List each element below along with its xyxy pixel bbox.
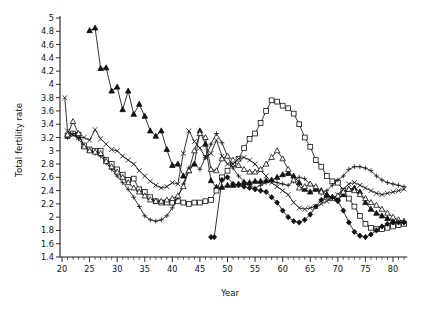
data-point-marker (87, 138, 92, 143)
x-tick-label: 65 (305, 264, 315, 274)
data-point-marker (390, 214, 396, 219)
x-tick-label: 75 (360, 264, 370, 274)
data-point-marker (252, 178, 258, 183)
y-tick-label: 4.6 (41, 40, 54, 50)
data-point-marker (258, 120, 263, 125)
data-point-marker (214, 188, 219, 193)
axes (56, 16, 407, 262)
data-point-marker (153, 183, 158, 188)
data-point-marker (209, 142, 214, 147)
series-square (65, 98, 406, 232)
data-point-marker (181, 184, 187, 189)
data-point-marker (103, 65, 109, 70)
fertility-rate-line-chart: 1.41.61.822.22.42.62.833.23.43.63.844.24… (0, 0, 445, 319)
y-tick-label: 2 (49, 212, 54, 222)
data-point-marker (363, 234, 368, 239)
data-point-marker (209, 198, 214, 203)
data-point-marker (214, 131, 219, 136)
data-point-marker (341, 208, 346, 213)
data-point-marker (379, 206, 385, 211)
data-point-marker (164, 146, 170, 151)
x-tick-label: 50 (222, 264, 232, 274)
x-tick-label: 20 (57, 264, 67, 274)
data-point-marker (153, 219, 158, 224)
data-point-marker (109, 88, 115, 93)
y-tick-label: 1.4 (41, 252, 54, 262)
series-cross (62, 95, 406, 211)
data-point-marker (120, 154, 125, 159)
data-point-marker (286, 192, 291, 197)
data-point-marker (352, 229, 357, 234)
data-series-group (62, 25, 406, 240)
y-tick-label: 4.4 (41, 53, 54, 63)
y-tick-label: 3.8 (41, 93, 54, 103)
data-point-marker (396, 183, 401, 188)
x-tick-labels: 20253035404550556065707580 (57, 264, 398, 274)
data-point-marker (209, 151, 214, 156)
data-point-marker (369, 188, 374, 193)
data-point-marker (258, 188, 263, 193)
x-tick-label: 45 (195, 264, 205, 274)
data-point-marker (385, 210, 391, 215)
data-point-marker (358, 233, 363, 238)
data-point-marker (253, 131, 258, 136)
data-point-marker (225, 168, 230, 173)
data-point-marker (148, 179, 153, 184)
data-point-marker (230, 157, 236, 162)
data-point-marker (274, 148, 280, 153)
data-point-marker (264, 109, 269, 114)
data-point-marker (385, 180, 390, 185)
data-point-marker (70, 119, 76, 124)
data-point-marker (269, 98, 274, 103)
data-point-marker (192, 200, 197, 205)
data-point-marker (374, 210, 380, 215)
data-point-marker (181, 200, 186, 205)
data-point-marker (104, 142, 109, 147)
data-point-marker (297, 122, 302, 127)
data-point-marker (136, 101, 142, 106)
data-point-marker (220, 140, 225, 145)
data-point-marker (363, 186, 368, 191)
data-point-marker (131, 162, 136, 167)
data-point-marker (313, 158, 318, 163)
data-point-marker (142, 113, 148, 118)
data-point-marker (214, 138, 219, 143)
data-point-marker (285, 166, 291, 171)
data-point-marker (131, 111, 137, 116)
data-point-marker (125, 88, 131, 93)
data-point-marker (175, 161, 181, 166)
data-point-marker (131, 195, 136, 200)
data-point-marker (93, 127, 98, 132)
y-tick-label: 2.4 (41, 186, 54, 196)
y-tick-labels: 1.41.61.822.22.42.62.833.23.43.63.844.24… (41, 13, 54, 262)
data-point-marker (120, 107, 126, 112)
y-tick-label: 2.8 (41, 159, 54, 169)
data-point-marker (247, 136, 252, 141)
data-point-marker (369, 232, 374, 237)
data-point-marker (247, 158, 252, 163)
data-point-marker (352, 204, 357, 209)
data-point-marker (335, 193, 341, 198)
series-plus (65, 131, 406, 223)
data-point-marker (363, 221, 368, 226)
chart-container: 1.41.61.822.22.42.62.833.23.43.63.844.24… (0, 0, 445, 319)
x-axis-title: Year (220, 288, 240, 298)
data-point-marker (131, 176, 136, 181)
y-tick-label: 2.6 (41, 172, 54, 182)
data-point-marker (402, 184, 407, 189)
data-point-marker (126, 158, 131, 163)
data-point-marker (358, 213, 363, 218)
data-point-marker (137, 168, 142, 173)
data-point-marker (319, 164, 324, 169)
data-point-marker (391, 182, 396, 187)
x-tick-label: 40 (167, 264, 177, 274)
data-point-marker (98, 136, 103, 141)
y-tick-label: 5 (49, 13, 54, 23)
data-point-marker (286, 106, 291, 111)
data-point-marker (280, 103, 285, 108)
data-point-marker (291, 200, 296, 205)
data-point-marker (358, 183, 363, 188)
x-tick-label: 60 (277, 264, 287, 274)
y-tick-label: 3 (49, 146, 54, 156)
data-point-marker (212, 234, 217, 239)
